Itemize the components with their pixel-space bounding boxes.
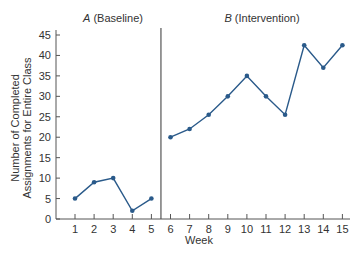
data-point xyxy=(206,112,211,117)
x-tick-label: 12 xyxy=(279,223,291,235)
data-series xyxy=(73,43,345,213)
phase-labels: A (Baseline)B (Intervention) xyxy=(82,12,300,24)
data-point xyxy=(340,43,345,48)
x-tick-label: 10 xyxy=(241,223,253,235)
x-tick-label: 13 xyxy=(298,223,310,235)
data-point xyxy=(302,43,307,48)
y-tick-label: 0 xyxy=(45,213,51,225)
y-tick-label: 10 xyxy=(39,172,51,184)
series-line-0 xyxy=(75,178,151,211)
y-tick-label: 25 xyxy=(39,111,51,123)
y-axis-label-line2: Assignments for Entire Class xyxy=(21,57,33,199)
data-point xyxy=(226,94,231,99)
axes xyxy=(56,30,350,219)
data-point xyxy=(73,196,78,201)
data-point xyxy=(168,135,173,140)
x-tick-label: 2 xyxy=(91,223,97,235)
x-axis-label: Week xyxy=(185,234,213,246)
data-point xyxy=(283,112,288,117)
data-point xyxy=(245,74,250,79)
y-tick-label: 35 xyxy=(39,70,51,82)
y-tick-label: 5 xyxy=(45,193,51,205)
x-tick-label: 3 xyxy=(110,223,116,235)
data-point xyxy=(92,180,97,185)
x-axis-ticks: 123456789101112131415 xyxy=(72,214,349,235)
y-axis-ticks: 051015202530354045 xyxy=(39,29,60,225)
y-tick-label: 45 xyxy=(39,29,51,41)
x-tick-label: 11 xyxy=(260,223,271,235)
x-tick-label: 5 xyxy=(148,223,154,235)
y-axis-label-line1: Number of Completed xyxy=(9,74,21,182)
y-tick-label: 30 xyxy=(39,90,51,102)
single-case-line-chart: 051015202530354045 123456789101112131415… xyxy=(0,0,362,257)
phase-label-b: B (Intervention) xyxy=(224,12,299,24)
x-tick-label: 14 xyxy=(317,223,329,235)
x-tick-label: 4 xyxy=(129,223,135,235)
y-tick-label: 20 xyxy=(39,131,51,143)
x-tick-label: 6 xyxy=(167,223,173,235)
x-tick-label: 15 xyxy=(336,223,348,235)
y-tick-label: 15 xyxy=(39,152,51,164)
series-line-1 xyxy=(171,45,343,137)
data-point xyxy=(187,127,192,132)
data-point xyxy=(149,196,154,201)
data-point xyxy=(321,65,326,70)
data-point xyxy=(111,176,116,181)
phase-label-a: A (Baseline) xyxy=(82,12,143,24)
data-point xyxy=(264,94,269,99)
y-tick-label: 40 xyxy=(39,49,51,61)
x-tick-label: 9 xyxy=(225,223,231,235)
data-point xyxy=(130,209,135,214)
x-tick-label: 1 xyxy=(72,223,78,235)
